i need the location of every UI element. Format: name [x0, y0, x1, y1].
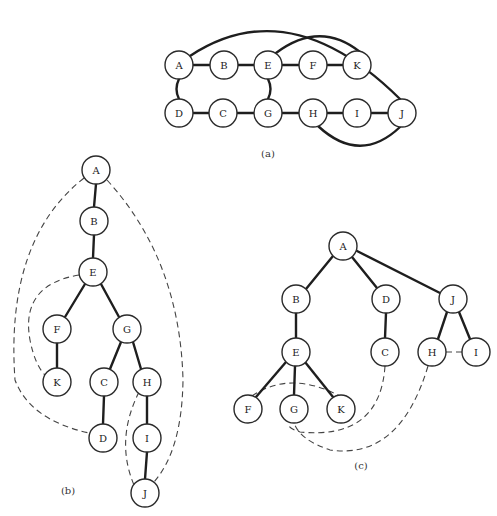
node-f: F — [234, 395, 262, 423]
solid-edge — [352, 257, 377, 288]
node-e: E — [254, 51, 282, 79]
node-label: A — [174, 60, 183, 71]
node-c: C — [209, 99, 237, 127]
node-a: A — [329, 232, 357, 260]
node-h: H — [133, 368, 161, 396]
node-g: G — [254, 99, 282, 127]
solid-edge — [94, 184, 96, 207]
node-e: E — [79, 258, 107, 286]
node-label: F — [310, 60, 317, 71]
solid-edge — [65, 284, 85, 317]
solid-edge — [93, 235, 94, 258]
node-label: E — [292, 347, 299, 358]
node-h: H — [418, 338, 446, 366]
node-j: J — [388, 99, 416, 127]
node-b: B — [282, 285, 310, 313]
graph-figure: ABEFKDCGHIJ(a)ABEFGKCHDIJ(b)ABDJECHIFGK(… — [0, 0, 497, 516]
node-label: B — [292, 294, 299, 305]
solid-edge — [294, 366, 295, 395]
node-label: D — [175, 108, 183, 119]
node-label: I — [145, 433, 149, 444]
node-c: C — [371, 338, 399, 366]
node-label: D — [382, 294, 390, 305]
solid-edge — [110, 342, 121, 369]
solid-edge — [385, 313, 386, 338]
node-label: A — [338, 241, 347, 252]
solid-edge — [306, 256, 333, 289]
panel-c: ABDJECHIFGK(c) — [234, 232, 490, 471]
node-a: A — [165, 51, 193, 79]
node-label: E — [264, 60, 271, 71]
node-label: K — [337, 404, 345, 415]
node-label: D — [99, 433, 107, 444]
panel-caption: (a) — [261, 148, 275, 159]
node-label: G — [290, 404, 298, 415]
solid-edge — [318, 126, 400, 146]
solid-edge — [103, 396, 104, 424]
node-label: J — [142, 488, 147, 499]
node-label: H — [309, 108, 318, 119]
node-label: J — [399, 108, 404, 119]
solid-edge — [133, 342, 141, 369]
node-i: I — [133, 424, 161, 452]
node-k: K — [43, 368, 71, 396]
solid-edge — [459, 312, 470, 339]
node-j: J — [439, 285, 467, 313]
node-f: F — [299, 51, 327, 79]
node-c: C — [90, 368, 118, 396]
solid-edge — [357, 251, 440, 293]
node-label: K — [353, 60, 361, 71]
node-label: B — [220, 60, 227, 71]
solid-edge — [145, 452, 147, 479]
panel-caption: (c) — [354, 460, 368, 471]
solid-edge — [305, 362, 333, 397]
node-label: C — [219, 108, 227, 119]
solid-edge — [268, 79, 271, 99]
node-d: D — [165, 99, 193, 127]
solid-edge — [276, 36, 360, 53]
node-label: K — [53, 377, 61, 388]
node-a: A — [82, 156, 110, 184]
node-b: B — [210, 51, 238, 79]
node-k: K — [343, 51, 371, 79]
node-k: K — [327, 395, 355, 423]
node-label: F — [245, 404, 252, 415]
node-d: D — [372, 285, 400, 313]
node-label: G — [264, 108, 272, 119]
solid-edge — [438, 312, 447, 339]
node-e: E — [282, 338, 310, 366]
panel-caption: (b) — [61, 485, 75, 496]
node-label: J — [450, 294, 455, 305]
node-i: I — [343, 99, 371, 127]
node-label: G — [123, 324, 131, 335]
node-j: J — [131, 479, 159, 507]
node-label: B — [90, 216, 97, 227]
node-label: A — [91, 165, 100, 176]
node-i: I — [462, 338, 490, 366]
node-label: H — [428, 347, 437, 358]
node-label: I — [355, 108, 359, 119]
node-label: C — [381, 347, 389, 358]
node-label: H — [143, 377, 152, 388]
node-h: H — [299, 99, 327, 127]
graph-panels: ABEFKDCGHIJ(a)ABEFGKCHDIJ(b)ABDJECHIFGK(… — [14, 31, 490, 507]
node-label: I — [474, 347, 478, 358]
solid-edge — [177, 79, 180, 99]
node-f: F — [43, 315, 71, 343]
dashed-back-edge — [294, 366, 428, 451]
node-label: C — [100, 377, 108, 388]
node-b: B — [80, 207, 108, 235]
solid-edge — [256, 362, 286, 397]
node-label: E — [89, 267, 96, 278]
panel-b: ABEFGKCHDIJ(b) — [14, 156, 183, 507]
solid-edge — [101, 284, 119, 317]
node-g: G — [113, 315, 141, 343]
node-g: G — [280, 395, 308, 423]
node-label: F — [54, 324, 61, 335]
panel-a: ABEFKDCGHIJ(a) — [165, 31, 416, 159]
node-d: D — [89, 424, 117, 452]
